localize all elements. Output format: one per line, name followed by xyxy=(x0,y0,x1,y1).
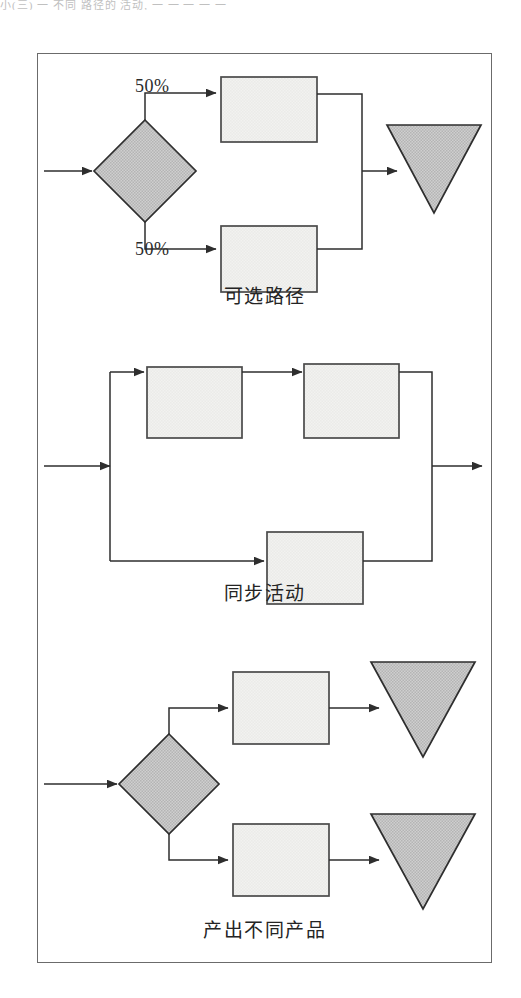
panel-2-caption: 同步活动 xyxy=(37,578,492,605)
merge-top-connector xyxy=(317,94,362,171)
figure-frame xyxy=(37,53,492,963)
activity-box-top-right xyxy=(304,364,399,438)
panel-3-caption: 产出不同产品 xyxy=(37,915,492,942)
panel-alternative-paths xyxy=(44,77,481,292)
flowchart-canvas xyxy=(38,54,490,961)
scan-edge-artifact: 小(三) 一 不同 路径的 活动, 一 一 一 一 一 xyxy=(0,0,521,10)
output-triangle xyxy=(387,125,481,213)
branch-bottom-connector xyxy=(169,834,228,860)
branch-top-percent-label: 50% xyxy=(135,76,170,97)
panel-synchronized-activities xyxy=(44,364,482,604)
activity-box-top-left xyxy=(147,367,242,438)
activity-box-bottom xyxy=(233,824,329,896)
branch-top-connector xyxy=(169,708,228,734)
output-triangle-top xyxy=(371,662,475,757)
branch-bottom-percent-label: 50% xyxy=(135,239,170,260)
merge-top-connector xyxy=(399,372,432,466)
activity-box-top xyxy=(233,672,329,744)
activity-box-top xyxy=(221,77,317,142)
decision-diamond xyxy=(94,120,196,222)
merge-bottom-connector xyxy=(363,466,432,561)
merge-bottom-connector xyxy=(317,171,362,249)
branch-top-connector xyxy=(145,93,216,120)
panel-1-caption: 可选路径 xyxy=(37,281,492,308)
decision-diamond xyxy=(119,734,219,834)
output-triangle-bottom xyxy=(371,814,475,909)
panel-different-products xyxy=(44,662,475,909)
